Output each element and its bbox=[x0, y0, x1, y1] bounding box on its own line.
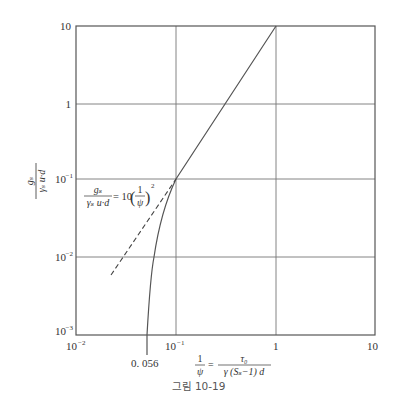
svg-text:γₛ u·d: γₛ u·d bbox=[87, 197, 110, 208]
svg-text:10: 10 bbox=[367, 340, 379, 352]
log-log-chart: 10 1 10 −1 10 −2 10 −3 10 −2 10 −1 1 10 … bbox=[0, 0, 397, 419]
svg-text:10: 10 bbox=[60, 20, 72, 32]
svg-text:−2: −2 bbox=[78, 339, 86, 347]
svg-text:10: 10 bbox=[66, 340, 78, 352]
x-tick-labels: 10 −2 10 −1 1 10 bbox=[66, 339, 379, 352]
svg-text:−1: −1 bbox=[177, 339, 185, 347]
svg-text:−1: −1 bbox=[66, 172, 74, 180]
y-axis-label: gₛ γₛ u·d bbox=[24, 163, 47, 199]
plot-frame bbox=[76, 26, 375, 335]
svg-text:γ (Sₛ−1) d: γ (Sₛ−1) d bbox=[224, 366, 266, 378]
svg-text:1: 1 bbox=[198, 353, 203, 364]
svg-text:γₛ u·d: γₛ u·d bbox=[36, 169, 47, 192]
svg-text:gₛ: gₛ bbox=[94, 184, 102, 195]
svg-text:): ) bbox=[145, 189, 150, 207]
svg-text:(: ( bbox=[130, 189, 135, 207]
intercept-label: 0. 056 bbox=[131, 357, 159, 369]
svg-text:−2: −2 bbox=[66, 250, 74, 258]
svg-text:ψ: ψ bbox=[137, 197, 144, 208]
svg-text:ψ: ψ bbox=[197, 366, 204, 377]
y-tick-labels: 10 1 10 −1 10 −2 10 −3 bbox=[55, 20, 73, 337]
svg-text:10: 10 bbox=[165, 340, 177, 352]
equation-annotation: gₛ γₛ u·d = 10 ( 1 ψ ) 2 bbox=[84, 182, 155, 208]
svg-text:1: 1 bbox=[66, 98, 72, 110]
svg-text:gₛ: gₛ bbox=[24, 177, 35, 185]
solid-curve bbox=[147, 26, 276, 355]
svg-text:1: 1 bbox=[273, 340, 279, 352]
svg-text:2: 2 bbox=[151, 182, 155, 190]
x-axis-label: 1 ψ = τ₀ γ (Sₛ−1) d bbox=[195, 353, 271, 378]
grid bbox=[76, 26, 375, 335]
figure-caption: 그림 10-19 bbox=[0, 378, 397, 393]
svg-text:τ₀: τ₀ bbox=[240, 353, 248, 364]
svg-text:=: = bbox=[208, 359, 214, 370]
svg-text:−3: −3 bbox=[66, 324, 74, 332]
svg-text:1: 1 bbox=[138, 184, 143, 195]
